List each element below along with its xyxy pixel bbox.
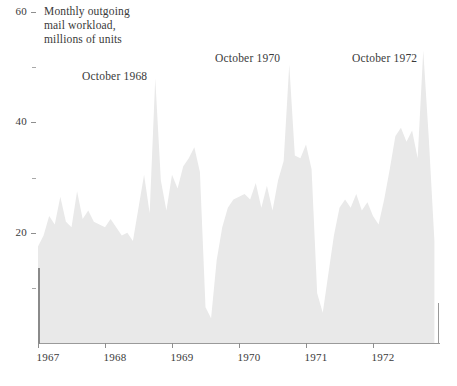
y-axis-tick	[32, 178, 36, 179]
x-axis-tick	[105, 343, 106, 348]
x-axis-label: 1969	[171, 351, 194, 363]
y-axis-tick	[32, 67, 36, 68]
y-axis-label: 60	[3, 5, 27, 17]
chart-annotation: October 1970	[215, 52, 280, 64]
x-axis-label: 1972	[372, 351, 395, 363]
x-axis-tick	[306, 343, 307, 348]
right-edge-rule	[438, 303, 439, 344]
x-axis-tick	[38, 343, 39, 348]
chart-annotation: October 1968	[82, 70, 147, 82]
chart-page: Monthly outgoing mail workload, millions…	[0, 0, 457, 386]
x-axis-tick	[172, 343, 173, 348]
x-axis-label: 1970	[238, 351, 261, 363]
y-axis-rule	[38, 268, 40, 344]
x-axis-tick	[373, 343, 374, 348]
x-axis-label: 1971	[305, 351, 328, 363]
y-axis-label: 20	[3, 226, 27, 238]
y-axis-label: 40	[3, 115, 27, 127]
y-axis-tick	[31, 233, 36, 234]
x-axis-tick	[239, 343, 240, 348]
y-axis-tick	[31, 12, 36, 13]
chart-annotation: October 1972	[352, 52, 417, 64]
x-axis-label: 1967	[37, 351, 60, 363]
y-axis-tick	[32, 288, 36, 289]
y-axis-tick	[31, 122, 36, 123]
area-series-path	[38, 51, 434, 343]
x-axis-label: 1968	[104, 351, 127, 363]
